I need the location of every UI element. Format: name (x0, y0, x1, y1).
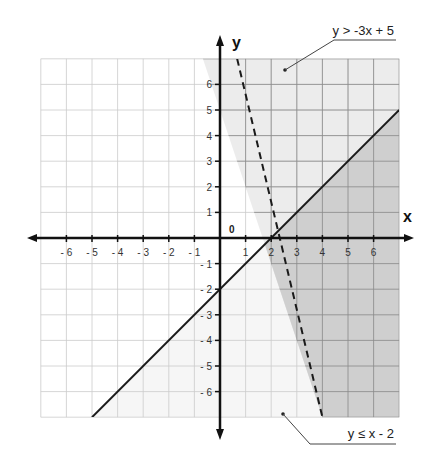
annotation-label-solid: y ≤ x - 2 (348, 426, 394, 441)
y-tick-label: 5 (206, 105, 212, 116)
x-tick-label: 5 (345, 247, 351, 258)
y-tick-label: - 5 (200, 361, 212, 372)
x-axis-label: x (403, 208, 412, 225)
x-tick-label: 1 (243, 247, 249, 258)
y-tick-label: - 4 (200, 335, 212, 346)
x-tick-label: - 3 (137, 247, 149, 258)
x-tick-label: - 5 (86, 247, 98, 258)
y-axis-label: y (232, 34, 241, 51)
y-tick-label: - 6 (200, 387, 212, 398)
x-tick-label: 2 (268, 247, 274, 258)
y-tick-label: 1 (206, 207, 212, 218)
x-tick-label: - 4 (112, 247, 124, 258)
x-axis-left-arrow-icon (27, 234, 37, 242)
x-tick-label: 3 (294, 247, 300, 258)
x-tick-label: 4 (320, 247, 326, 258)
y-tick-label: - 2 (200, 284, 212, 295)
x-tick-label: - 6 (61, 247, 73, 258)
x-tick-label: 6 (371, 247, 377, 258)
y-tick-label: - 1 (200, 259, 212, 270)
x-axis-right-arrow-icon (404, 234, 414, 242)
annotation-label-dashed: y > -3x + 5 (333, 23, 394, 38)
inequality-graph: - 6- 5- 4- 3- 2- 1123456- 6- 5- 4- 3- 2-… (0, 0, 434, 468)
y-tick-label: 6 (206, 79, 212, 90)
y-axis-up-arrow-icon (216, 35, 224, 46)
y-tick-label: 3 (206, 156, 212, 167)
y-tick-label: 2 (206, 182, 212, 193)
y-axis-down-arrow-icon (216, 429, 224, 440)
origin-label: 0 (229, 224, 235, 235)
x-tick-label: - 2 (163, 247, 175, 258)
y-tick-label: 4 (206, 131, 212, 142)
y-tick-label: - 3 (200, 310, 212, 321)
x-tick-label: - 1 (189, 247, 201, 258)
